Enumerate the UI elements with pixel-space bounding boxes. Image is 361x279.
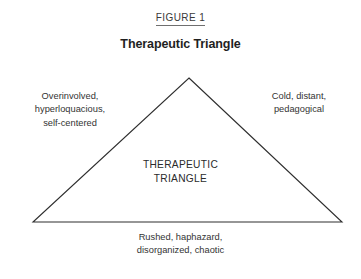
triangle-center-label-line-1: THERAPEUTIC: [0, 158, 361, 172]
annotation-right-line-2: pedagogical: [240, 103, 358, 116]
figure-canvas: FIGURE 1 Therapeutic Triangle Overinvolv…: [0, 0, 361, 279]
triangle-center-label-line-2: TRIANGLE: [0, 172, 361, 186]
annotation-right: Cold, distant, pedagogical: [240, 90, 358, 117]
annotation-bottom-line-1: Rushed, haphazard,: [0, 231, 361, 244]
annotation-left-line-2: hyperloquacious,: [8, 103, 132, 116]
annotation-left-line-3: self-centered: [8, 117, 132, 130]
annotation-bottom: Rushed, haphazard, disorganized, chaotic: [0, 231, 361, 258]
annotation-left: Overinvolved, hyperloquacious, self-cent…: [8, 90, 132, 130]
triangle-center-label: THERAPEUTIC TRIANGLE: [0, 158, 361, 185]
annotation-right-line-1: Cold, distant,: [240, 90, 358, 103]
annotation-left-line-1: Overinvolved,: [8, 90, 132, 103]
annotation-bottom-line-2: disorganized, chaotic: [0, 244, 361, 257]
